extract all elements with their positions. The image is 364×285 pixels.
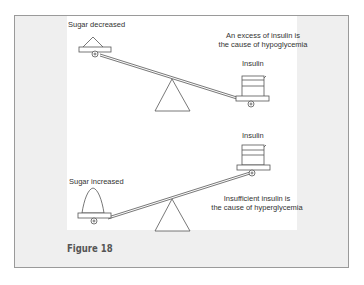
figure-caption: Figure 18 (67, 243, 113, 254)
insulin-label-top: Insulin (242, 59, 264, 68)
insulin-beaker-icon (236, 76, 269, 107)
bottom-seesaw (78, 145, 270, 231)
sugar-pile-small-icon (79, 37, 111, 57)
top-fulcrum-icon (155, 79, 190, 111)
hyperglycemia-note: Insufficient insulin is the cause of hyp… (202, 194, 312, 212)
hyperglycemia-note-line2: the cause of hyperglycemia (202, 203, 312, 212)
bottom-fulcrum-icon (155, 199, 190, 231)
hypoglycemia-note-line1: An excess of insulin is (208, 31, 318, 40)
insulin-label-bottom: Insulin (242, 131, 264, 140)
sugar-increased-label: Sugar increased (69, 177, 124, 186)
sugar-pile-large-icon (78, 188, 111, 224)
hypoglycemia-note-line2: the cause of hypoglycemia (208, 40, 318, 49)
insulin-beaker-icon (237, 145, 270, 176)
sugar-decreased-label: Sugar decreased (68, 20, 125, 29)
hypoglycemia-note: An excess of insulin is the cause of hyp… (208, 31, 318, 49)
hyperglycemia-note-line1: Insufficient insulin is (202, 194, 312, 203)
